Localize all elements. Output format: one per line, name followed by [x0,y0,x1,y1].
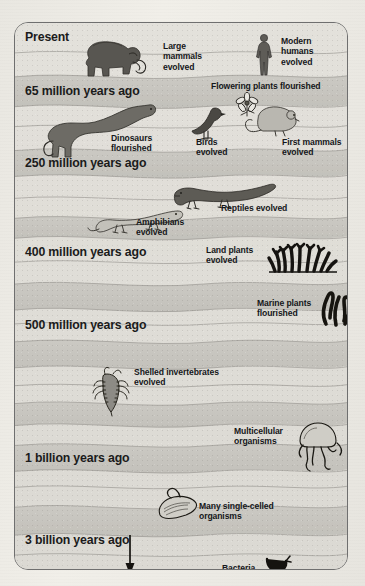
caption-flowering-plants: Flowering plants flourished [211,81,321,91]
caption-multicellular: Multicellular organisms [234,426,283,447]
era-label-present: Present [25,31,69,43]
caption-first-mammals: First mammals evolved [282,137,341,158]
caption-amphibians: Amphibians evolved [136,217,184,238]
caption-marine-plants: Marine plants flourished [257,298,311,319]
caption-bacteria: Bacteria [222,563,255,570]
jellyfish-icon [295,419,345,475]
trilobite-icon [91,366,133,416]
era-label-1-billion: 1 billion years ago [25,452,129,464]
caption-shelled-invertebrates: Shelled invertebrates evolved [134,367,219,388]
human-icon [253,33,275,77]
caption-modern-humans: Modern humans evolved [281,36,313,67]
caption-reptiles: Reptiles evolved [221,203,287,213]
mammoth-icon [73,36,151,82]
page-background: Present 65 million years ago 250 million… [0,0,365,586]
era-label-400-million: 400 million years ago [25,246,146,258]
caption-dinosaurs: Dinosaurs flourished [111,133,152,154]
era-label-3-billion: 3 billion years ago [25,534,129,546]
caption-birds: Birds evolved [196,137,227,158]
time-direction-arrow [121,535,139,570]
era-label-500-million: 500 million years ago [25,319,146,331]
geologic-timescale-frame: Present 65 million years ago 250 million… [14,22,348,570]
amoeba-icon [152,485,202,527]
sauropod-icon [41,99,161,165]
caption-land-plants: Land plants evolved [206,245,253,266]
caption-large-mammals: Large mammals evolved [163,41,202,72]
seaweed-icon [319,288,348,328]
caption-single-celled: Many single-celled organisms [199,501,274,522]
era-label-65-million: 65 million years ago [25,85,140,97]
land-plant-icon [267,241,339,275]
bacteria-icon [263,555,293,570]
